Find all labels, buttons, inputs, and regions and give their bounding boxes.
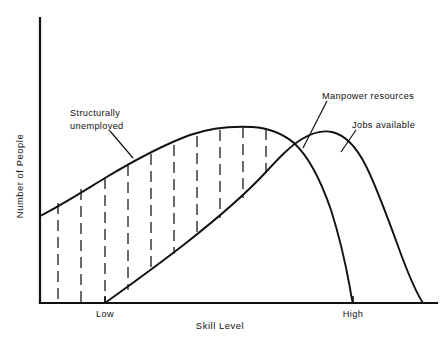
- annotation-jobs-available: Jobs available: [352, 120, 415, 130]
- leader-manpower-resources: [303, 101, 327, 148]
- chart-canvas: Number of People Skill Level Low High St…: [0, 0, 445, 339]
- x-tick-label-low: Low: [96, 309, 114, 319]
- annotation-structurally-unemployed-line2: unemployed: [70, 121, 124, 131]
- y-axis-title: Number of People: [14, 134, 25, 218]
- annotation-structurally-unemployed-line1: Structurally: [70, 108, 120, 118]
- leader-jobs-available: [341, 130, 356, 152]
- x-axis-title: Skill Level: [196, 320, 244, 331]
- chart-figure: Number of People Skill Level Low High St…: [0, 0, 445, 339]
- leader-structurally-unemployed: [110, 131, 133, 158]
- x-tick-label-high: High: [343, 309, 364, 319]
- curve-jobs-available: [105, 131, 423, 303]
- annotation-manpower-resources: Manpower resources: [322, 91, 414, 101]
- hatching-structurally-unemployed: [58, 127, 266, 303]
